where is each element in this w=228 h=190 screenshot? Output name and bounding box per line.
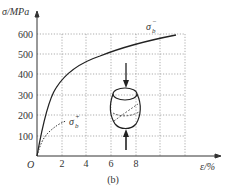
svg-text:500: 500 bbox=[18, 49, 33, 60]
svg-text:b: b bbox=[152, 27, 156, 35]
svg-text:2: 2 bbox=[60, 158, 65, 169]
label-sigma-b-minus: σ b − bbox=[146, 18, 157, 35]
svg-text:6: 6 bbox=[109, 158, 114, 169]
svg-text:+: + bbox=[75, 113, 80, 121]
y-tick-labels: 600 500 400 300 200 100 bbox=[18, 29, 33, 142]
x-tick-labels: 2 4 6 8 bbox=[60, 158, 139, 169]
svg-text:100: 100 bbox=[18, 131, 33, 142]
svg-text:300: 300 bbox=[18, 90, 33, 101]
svg-text:−: − bbox=[152, 18, 157, 26]
curve-sigma-b-minus bbox=[37, 35, 176, 156]
svg-text:200: 200 bbox=[18, 110, 33, 121]
svg-text:600: 600 bbox=[18, 29, 33, 40]
x-axis-label: ε/% bbox=[200, 161, 215, 172]
origin-label: O bbox=[27, 159, 34, 170]
stress-strain-chart: 600 500 400 300 200 100 2 4 6 8 O σ/MPa … bbox=[0, 0, 228, 190]
y-axis-label: σ/MPa bbox=[2, 6, 29, 17]
svg-text:4: 4 bbox=[84, 158, 89, 169]
svg-text:400: 400 bbox=[18, 69, 33, 80]
svg-text:8: 8 bbox=[134, 158, 139, 169]
figure-caption: (b) bbox=[107, 174, 119, 186]
svg-text:b: b bbox=[75, 122, 79, 130]
label-sigma-b-plus: σ b + bbox=[69, 113, 80, 130]
